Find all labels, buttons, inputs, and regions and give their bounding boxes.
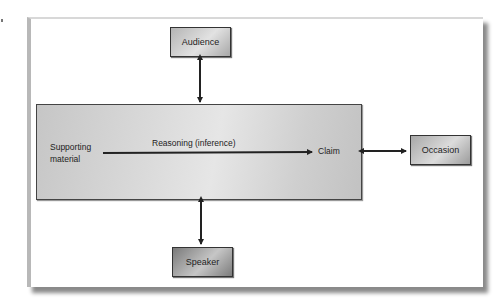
connector-arrows	[0, 0, 504, 306]
reasoning-arrow	[103, 152, 312, 153]
